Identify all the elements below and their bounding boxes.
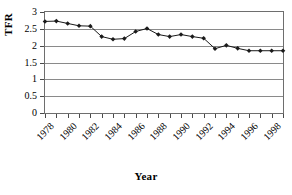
y-axis-title: TFR <box>2 13 14 36</box>
y-axis-tick-label: 2 <box>32 41 37 51</box>
x-axis-tick-mark <box>170 114 171 118</box>
x-axis-tick-mark <box>124 114 125 118</box>
x-axis-tick-mark <box>147 114 148 118</box>
data-point-marker <box>235 46 240 51</box>
y-axis-tick-label: 2.5 <box>25 24 38 34</box>
x-axis-tick-label: 1986 <box>121 121 146 146</box>
x-axis-tick-label: 1988 <box>144 121 169 146</box>
x-axis-tick-mark <box>56 114 57 118</box>
x-axis-tick-label: 1978 <box>31 121 56 146</box>
x-axis-tick-label: 1984 <box>99 121 124 146</box>
x-axis-tick-label: 1992 <box>189 121 214 146</box>
data-point-marker <box>43 19 48 24</box>
plot-area <box>44 11 284 114</box>
x-axis-tick-mark <box>215 114 216 118</box>
tfr-line-series <box>45 12 283 113</box>
data-point-marker <box>190 34 195 39</box>
x-axis-tick-label: 1994 <box>212 121 237 146</box>
y-axis-tick-label: 1.5 <box>25 58 38 68</box>
x-axis-tick-mark <box>226 114 227 118</box>
x-axis-tick-mark <box>45 114 46 118</box>
y-axis-tick-label: 1 <box>32 74 37 84</box>
data-point-marker <box>247 48 252 53</box>
data-point-marker <box>65 21 70 26</box>
x-axis-tick-label: 1990 <box>167 121 192 146</box>
x-axis-tick-mark <box>204 114 205 118</box>
data-point-marker <box>156 32 161 37</box>
data-point-marker <box>179 32 184 37</box>
data-point-marker <box>145 26 150 31</box>
data-point-marker <box>54 19 59 24</box>
x-axis-tick-label: 1998 <box>257 121 282 146</box>
data-point-marker <box>281 48 286 53</box>
data-point-marker <box>133 29 138 34</box>
x-axis-tick-label: 1980 <box>53 121 78 146</box>
x-axis-title: Year <box>0 170 292 182</box>
data-point-marker <box>111 37 116 42</box>
y-axis-tick-label: 0.5 <box>25 91 38 101</box>
x-axis-tick-mark <box>272 114 273 118</box>
x-axis-tick-mark <box>113 114 114 118</box>
x-axis-tick-mark <box>181 114 182 118</box>
x-axis-tick-label: 1996 <box>235 121 260 146</box>
x-axis-tick-mark <box>90 114 91 118</box>
x-axis-tick-mark <box>79 114 80 118</box>
data-point-marker <box>167 34 172 39</box>
x-axis-tick-label: 1982 <box>76 121 101 146</box>
data-point-marker <box>122 36 127 41</box>
x-axis-tick-mark <box>136 114 137 118</box>
data-point-marker <box>258 48 263 53</box>
y-axis-tick-label: 0 <box>32 108 37 118</box>
x-axis-tick-mark <box>260 114 261 118</box>
x-axis-tick-mark <box>238 114 239 118</box>
x-axis-tick-mark <box>102 114 103 118</box>
data-point-marker <box>224 43 229 48</box>
data-point-marker <box>77 24 82 29</box>
data-point-marker <box>269 48 274 53</box>
chart-page: TFR 32.521.510.50 1978198019821984198619… <box>0 0 292 195</box>
x-axis-tick-mark <box>249 114 250 118</box>
x-axis-tick-mark <box>192 114 193 118</box>
x-axis-tick-mark <box>68 114 69 118</box>
x-axis-tick-mark <box>283 114 284 118</box>
y-axis-tick-label: 3 <box>32 7 37 17</box>
x-axis-tick-mark <box>158 114 159 118</box>
